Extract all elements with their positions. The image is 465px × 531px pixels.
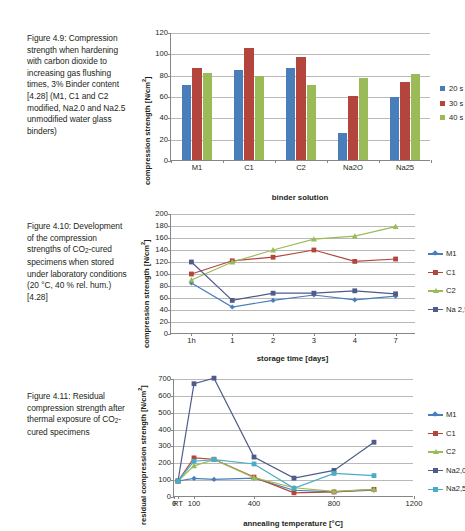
figure-4-11-block: Figure 4.11: Residual compres​sion stren… xyxy=(0,370,465,531)
chart1-ytick-label: 60 xyxy=(160,93,168,101)
chart3-xtick-label: RT xyxy=(173,500,183,508)
chart3-marker xyxy=(191,476,196,481)
chart1-ytick-mark xyxy=(168,76,171,77)
chart2-line-C1 xyxy=(191,250,395,274)
chart1-bar xyxy=(192,68,202,160)
chart2-line-Na 2,5 xyxy=(191,262,395,300)
chart2-marker xyxy=(189,260,194,265)
chart1-xtick-mark xyxy=(431,160,432,163)
chart2-ytick-label: 180 xyxy=(155,222,168,230)
chart1-xtick-mark xyxy=(171,160,172,163)
chart1-bar xyxy=(359,78,369,160)
chart1-x-axis-label: binder solution xyxy=(170,193,430,202)
chart2-marker xyxy=(352,259,357,264)
chart3-marker xyxy=(292,476,297,481)
figure-4-11-caption: Figure 4.11: Residual compres​sion stren… xyxy=(27,391,131,439)
chart3-marker xyxy=(211,477,216,482)
chart1-xtick-label: M1 xyxy=(192,164,203,172)
chart1-bar xyxy=(411,74,421,160)
chart2-marker xyxy=(393,291,398,296)
legend-label-20s: 20 s xyxy=(449,85,463,93)
legend-item-na20: Na2,0 xyxy=(428,467,465,475)
legend-label-na20: Na2,0 xyxy=(446,467,465,475)
chart2-ytick-label: 140 xyxy=(155,246,168,254)
chart2-marker xyxy=(271,255,276,260)
chart3-marker xyxy=(192,459,197,464)
chart2-line-M1 xyxy=(191,283,395,307)
legend-label-c1: C1 xyxy=(446,269,456,277)
figure-4-10-caption: Figure 4.10: Development of the compress… xyxy=(27,221,131,303)
figure-page: Figure 4.9: Com​pression strength when h… xyxy=(0,0,465,531)
legend-swatch-20s xyxy=(440,86,445,91)
chart3-marker xyxy=(192,381,197,386)
chart3-line-Na2,5 xyxy=(178,460,374,489)
chart3-ytick-label: 500 xyxy=(158,409,171,417)
legend-item-na25: Na2,5 xyxy=(428,485,465,493)
figure-4-10-block: Figure 4.10: Development of the compress… xyxy=(0,205,465,370)
legend-item-20s: 20 s xyxy=(440,85,463,93)
chart2-xtick-label: 1h xyxy=(187,337,195,345)
chart3-legend: M1 C1 C2 Na xyxy=(428,411,465,500)
chart2-ytick-label: 160 xyxy=(155,234,168,242)
chart2-series-layer xyxy=(171,214,416,334)
chart2-ytick-label: 60 xyxy=(160,294,168,302)
chart2-marker xyxy=(230,298,235,303)
chart3-xtick-label: 1200 xyxy=(406,500,423,508)
chart2-marker xyxy=(393,224,399,229)
legend-item-m1: M1 xyxy=(428,250,465,258)
chart2-x-axis-label: storage time [days] xyxy=(170,354,415,363)
chart1-bar xyxy=(203,73,213,160)
legend-marker-m1 xyxy=(428,251,443,256)
chart1-bar xyxy=(348,96,358,160)
chart3-marker xyxy=(252,462,257,467)
chart3-marker xyxy=(372,473,377,478)
chart1-xtick-label: Na2O xyxy=(343,164,363,172)
legend-item-c2: C2 xyxy=(428,448,465,456)
chart2-marker xyxy=(312,291,317,296)
chart1-bar xyxy=(390,97,400,160)
figure-4-9-caption: Figure 4.9: Com​pression strength when h… xyxy=(27,33,131,137)
legend-marker-c1 xyxy=(428,431,443,436)
legend-label-m1: M1 xyxy=(446,250,457,258)
chart3-marker xyxy=(292,490,297,495)
chart3-ytick-label: 700 xyxy=(158,375,171,383)
chart1-ytick-label: 20 xyxy=(160,136,168,144)
legend-item-c1: C1 xyxy=(428,269,465,277)
chart3-plot-area: 01002003004005006007000RT1004008001200 xyxy=(173,379,413,497)
chart3-xtick-label: 100 xyxy=(188,500,201,508)
chart1-plot-area: 020406080100120M1C1C2Na2ONa25 xyxy=(170,33,430,161)
legend-marker-na25 xyxy=(428,487,443,492)
legend-swatch-40s xyxy=(440,115,445,120)
chart1-gridline xyxy=(171,54,430,55)
legend-label-c2: C2 xyxy=(446,448,456,456)
chart1-y-axis-label: compression strength [N/cm2] xyxy=(141,76,152,185)
chart1-bar xyxy=(244,48,254,160)
chart3-y-axis-label: residual compression strength [N/cm2] xyxy=(137,385,148,525)
chart3-line-Na2,0 xyxy=(178,378,374,481)
chart2-ytick-label: 100 xyxy=(155,270,168,278)
chart2-marker xyxy=(230,304,235,309)
chart2-xtick-label: 2 xyxy=(271,337,275,345)
chart1-bar xyxy=(286,68,296,160)
chart1-bar xyxy=(296,57,306,160)
chart2-marker xyxy=(352,288,357,293)
chart3-ytick-label: 200 xyxy=(158,459,171,467)
chart1-xtick-mark xyxy=(275,160,276,163)
chart-compression-vs-flushing-time: compression strength [N/cm2] 02040608010… xyxy=(135,25,465,205)
chart2-plot-area: 0204060801001201401601802001h12347 xyxy=(170,214,415,334)
chart1-bar xyxy=(182,85,192,160)
chart1-xtick-mark xyxy=(379,160,380,163)
legend-label-30s: 30 s xyxy=(449,100,463,108)
chart3-marker xyxy=(212,457,217,462)
chart1-ytick-label: 120 xyxy=(155,29,168,37)
legend-item-na25: Na 2,5 xyxy=(428,306,465,314)
legend-label-40s: 40 s xyxy=(449,114,463,122)
chart3-x-axis-label: annealing temperature [°C] xyxy=(173,519,413,528)
chart2-xtick-label: 1 xyxy=(230,337,234,345)
chart2-marker xyxy=(189,272,194,277)
chart2-ytick-mark xyxy=(168,334,171,335)
chart2-legend: M1 C1 C2 Na xyxy=(428,250,465,320)
chart3-marker xyxy=(292,486,297,491)
chart3-ytick-label: 400 xyxy=(158,426,171,434)
chart2-ytick-label: 20 xyxy=(160,318,168,326)
